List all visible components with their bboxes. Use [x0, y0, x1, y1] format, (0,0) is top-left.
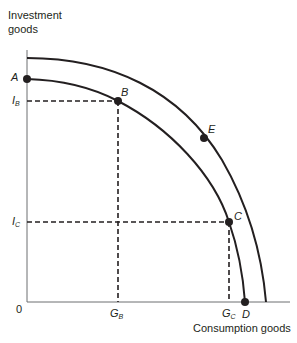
tick-ib-sub: B [15, 100, 20, 107]
origin-label: 0 [16, 303, 22, 316]
tick-gc: GC [222, 307, 236, 323]
tick-gc-sub: C [231, 313, 236, 320]
x-axis-label: Consumption goods [193, 322, 291, 335]
ppf-diagram [0, 0, 297, 343]
label-c: C [234, 210, 242, 223]
label-b: B [121, 86, 128, 99]
label-d: D [242, 308, 250, 321]
label-a: A [11, 71, 18, 84]
tick-ic-sub: C [15, 221, 20, 228]
point-e [200, 134, 208, 142]
tick-ib: IB [12, 94, 20, 110]
inner-ppf-curve [27, 79, 245, 302]
tick-ic: IC [12, 215, 20, 231]
point-d [241, 298, 249, 306]
y-axis-label-line1: Investment [8, 9, 62, 22]
tick-gb-main: G [110, 307, 119, 319]
y-axis-label-line2: goods [8, 23, 38, 36]
tick-gc-main: G [222, 307, 231, 319]
label-e: E [208, 123, 215, 136]
tick-gb-sub: B [119, 313, 124, 320]
tick-gb: GB [110, 307, 123, 323]
point-c [225, 218, 233, 226]
point-a [23, 75, 31, 83]
outer-ppf-curve [27, 58, 266, 302]
